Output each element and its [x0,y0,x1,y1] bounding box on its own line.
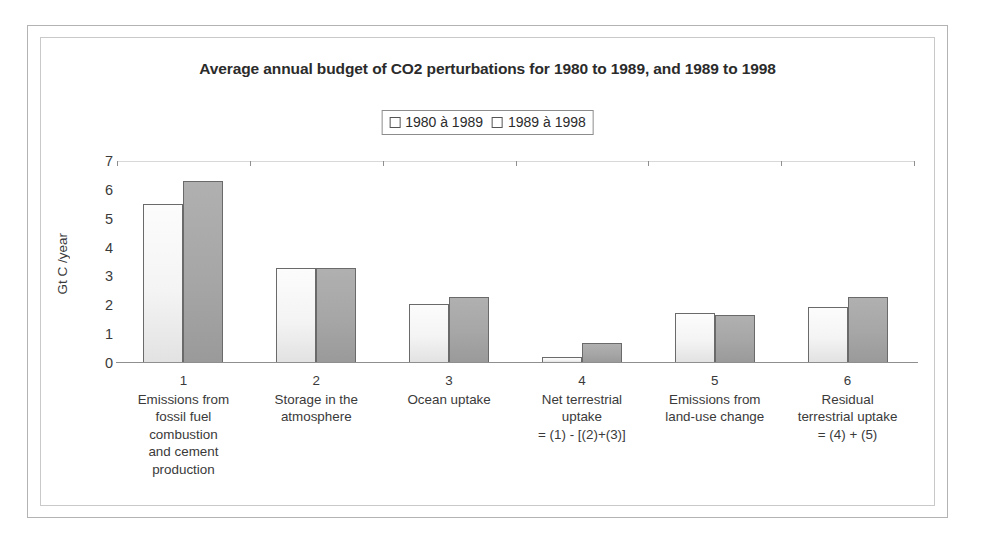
y-axis-tick-labels: 76543210 [87,152,113,372]
y-axis-tick-1: 1 [105,326,113,342]
y-axis-tick-0: 0 [105,355,113,371]
category-text-line-4: production [109,461,258,479]
bar-cat6-series1 [808,307,848,363]
category-number-4: 4 [508,372,657,390]
bar-group-1 [117,161,250,363]
category-label-5: 5Emissions fromland-use change [640,372,789,426]
bar-cat3-series2 [449,297,489,363]
category-label-2: 2Storage in theatmosphere [242,372,391,426]
category-number-1: 1 [109,372,258,390]
category-number-2: 2 [242,372,391,390]
x-tick-mark-3 [516,161,517,166]
bar-cat2-series1 [276,268,316,363]
category-label-6: 6Residualterrestrial uptake= (4) + (5) [773,372,922,443]
bar-cat2-series2 [316,268,356,363]
category-text-line-1: uptake [508,408,657,426]
x-tick-mark-5 [781,161,782,166]
plot-wrapper: Gt C /year 76543210 1Emissions fromfossi… [41,38,934,505]
y-axis-title: Gt C /year [55,233,70,295]
bar-cat3-series1 [409,304,449,363]
chart-outer-frame: Average annual budget of CO2 perturbatio… [27,25,948,518]
x-tick-mark-2 [383,161,384,166]
category-text-line-1: terrestrial uptake [773,408,922,426]
category-text-line-1: atmosphere [242,408,391,426]
y-axis-tick-5: 5 [105,211,113,227]
category-label-4: 4Net terrestrialuptake= (1) - [(2)+(3)] [508,372,657,443]
y-axis-tick-2: 2 [105,297,113,313]
category-number-3: 3 [375,372,524,390]
x-tick-mark-6 [914,161,915,166]
x-axis-baseline [116,362,918,363]
bar-group-2 [250,161,383,363]
category-text-line-2: combustion [109,426,258,444]
x-tick-mark-1 [250,161,251,166]
category-text-line-0: Ocean uptake [375,391,524,409]
bar-cat1-series1 [143,204,183,363]
category-text-line-1: land-use change [640,408,789,426]
category-label-1: 1Emissions fromfossil fuelcombustionand … [109,372,258,478]
bar-cat6-series2 [848,297,888,363]
category-text-line-0: Emissions from [109,391,258,409]
bar-group-4 [516,161,649,363]
category-text-line-0: Emissions from [640,391,789,409]
y-axis-tick-6: 6 [105,182,113,198]
bar-group-3 [383,161,516,363]
category-text-line-0: Net terrestrial [508,391,657,409]
y-axis-tick-4: 4 [105,240,113,256]
category-text-line-0: Storage in the [242,391,391,409]
category-text-line-1: fossil fuel [109,408,258,426]
category-text-line-3: and cement [109,443,258,461]
plot-area [117,161,914,363]
bar-group-6 [781,161,914,363]
y-axis-tick-3: 3 [105,268,113,284]
y-axis-tick-7: 7 [105,153,113,169]
category-text-line-0: Residual [773,391,922,409]
bar-group-5 [648,161,781,363]
category-number-6: 6 [773,372,922,390]
bar-cat4-series2 [582,343,622,363]
bar-cat5-series1 [675,313,715,364]
bar-cat5-series2 [715,315,755,363]
category-label-3: 3Ocean uptake [375,372,524,408]
x-tick-mark-4 [648,161,649,166]
category-text-line-2: = (4) + (5) [773,426,922,444]
chart-inner-frame: Average annual budget of CO2 perturbatio… [40,37,935,506]
category-text-line-2: = (1) - [(2)+(3)] [508,426,657,444]
bar-cat1-series2 [183,181,223,363]
x-tick-mark-0 [117,161,118,166]
x-axis-category-labels: 1Emissions fromfossil fuelcombustionand … [117,372,914,512]
category-number-5: 5 [640,372,789,390]
